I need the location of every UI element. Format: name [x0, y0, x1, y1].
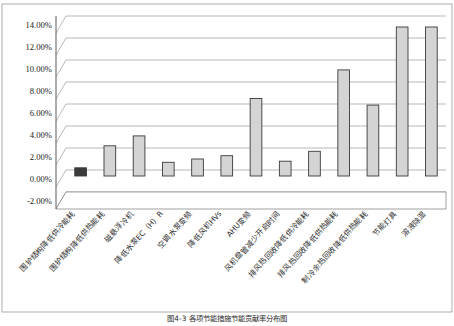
chart-canvas: 14.00%12.00%10.00%8.00%6.00%4.00%2.00%0.…: [0, 0, 454, 326]
y-axis-tick-label: 4.00%: [30, 130, 52, 140]
bar: [426, 27, 438, 176]
x-axis-category-label: 围护结构降低供热能耗: [47, 209, 107, 274]
x-axis-category-label: 节能灯具: [370, 209, 398, 239]
bar: [367, 105, 379, 176]
x-axis-category-label: 风机盘管减少开启时间: [222, 209, 282, 274]
y-axis-tick-label: 8.00%: [30, 86, 52, 96]
x-axis-category-label: 降低水泵EC（H）R: [112, 208, 165, 265]
y-axis-tick-labels: 14.00%12.00%10.00%8.00%6.00%4.00%2.00%0.…: [26, 20, 53, 206]
bar: [162, 162, 174, 176]
bar: [104, 146, 116, 176]
bar: [396, 27, 408, 176]
bar: [309, 151, 321, 176]
bar: [250, 99, 262, 177]
y-axis-tick-label: 10.00%: [26, 64, 53, 74]
y-axis-tick-label: 6.00%: [30, 108, 52, 118]
y-axis-tick-label: -2.00%: [27, 196, 52, 206]
bar: [221, 156, 233, 176]
bar-chart-figure: 14.00%12.00%10.00%8.00%6.00%4.00%2.00%0.…: [0, 0, 454, 326]
x-axis-category-labels: 围护结构降低供冷能耗围护结构降低供热能耗磁悬浮冷机降低水泵EC（H）R空调水泵变…: [17, 208, 428, 285]
chart-floor: [56, 192, 446, 209]
bar: [133, 136, 145, 176]
bar: [75, 168, 87, 176]
x-axis-category-label: AHU变频: [224, 209, 253, 239]
x-axis-category-label: 围护结构降低供冷能耗: [17, 209, 77, 274]
figure-caption: 图4-3 各项节能措施节能贡献率分布图: [167, 314, 286, 323]
bar: [338, 70, 350, 176]
bar: [192, 159, 204, 176]
x-axis-category-label: 溶液除湿: [400, 209, 428, 239]
y-axis-tick-label: 14.00%: [26, 20, 53, 30]
bar: [279, 161, 291, 176]
y-axis-tick-label: 12.00%: [26, 42, 53, 52]
y-axis-tick-label: 2.00%: [30, 152, 52, 162]
y-axis-tick-label: 0.00%: [30, 174, 52, 184]
